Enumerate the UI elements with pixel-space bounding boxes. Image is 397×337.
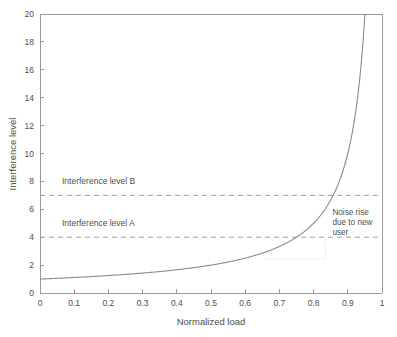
y-tick-label: 14 <box>25 93 35 103</box>
x-tick-label: 0.1 <box>68 298 80 308</box>
y-axis-title: Interference level <box>7 118 18 191</box>
x-tick-label: 1 <box>380 298 385 308</box>
x-tick-label: 0.6 <box>239 298 251 308</box>
x-tick-label: 0.7 <box>273 298 285 308</box>
y-tick-label: 10 <box>25 149 35 159</box>
x-tick-label: 0.3 <box>137 298 149 308</box>
chart-svg: 02468101214161820 00.10.20.30.40.50.60.7… <box>0 0 397 337</box>
y-tick-label: 16 <box>25 65 35 75</box>
y-tick-label: 8 <box>29 176 34 186</box>
x-tick-label: 0.9 <box>342 298 354 308</box>
y-tick-label: 6 <box>29 204 34 214</box>
y-tick-label: 18 <box>25 37 35 47</box>
y-tick-label: 2 <box>29 260 34 270</box>
x-tick-label: 0.2 <box>102 298 114 308</box>
y-tick-label: 12 <box>25 121 35 131</box>
threshold-label-a: Interference level A <box>62 218 135 228</box>
x-axis-title: Normalized load <box>177 316 246 327</box>
threshold-label-b: Interference level B <box>62 176 136 186</box>
y-tick-label: 0 <box>29 288 34 298</box>
chart-background <box>0 0 397 337</box>
x-tick-label: 0.4 <box>171 298 183 308</box>
chart-figure: 02468101214161820 00.10.20.30.40.50.60.7… <box>0 0 397 337</box>
y-tick-label: 4 <box>29 232 34 242</box>
x-tick-label: 0 <box>38 298 43 308</box>
y-tick-label: 20 <box>25 9 35 19</box>
x-tick-label: 0.8 <box>308 298 320 308</box>
x-tick-label: 0.5 <box>205 298 217 308</box>
